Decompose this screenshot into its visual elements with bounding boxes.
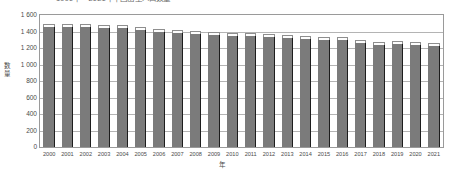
- bar-column: [172, 15, 183, 147]
- bar-top-face: [43, 24, 54, 27]
- bar-top-face: [373, 42, 384, 45]
- bar-top-face: [318, 37, 329, 40]
- bar-top-face: [80, 24, 91, 27]
- bar-top-face: [227, 33, 238, 36]
- y-axis-tick-label: 0: [3, 143, 37, 150]
- bar-top-face: [153, 29, 164, 32]
- x-axis-tick-label: 2008: [187, 150, 205, 158]
- y-axis-tick-label: 400: [3, 110, 37, 117]
- x-axis-tick-label: 2012: [260, 150, 278, 158]
- bar: [135, 30, 146, 147]
- bar-top-face: [355, 40, 366, 43]
- bar: [227, 36, 238, 147]
- y-axis-tick-label: 1 400: [3, 28, 37, 35]
- bar-top-face: [135, 27, 146, 30]
- bar-top-face: [263, 34, 274, 37]
- bar: [337, 40, 348, 147]
- y-axis-tick-label: 600: [3, 94, 37, 101]
- bar: [80, 27, 91, 147]
- bar-column: [227, 15, 238, 147]
- x-axis-tick-labels: 2000200120022003200420052006200720082009…: [40, 150, 443, 160]
- x-axis-tick-label: 2003: [95, 150, 113, 158]
- bar-top-face: [428, 43, 439, 46]
- bar: [43, 27, 54, 147]
- bar-column: [190, 15, 201, 147]
- chart-title: 1990年—2021年中国出生人口数量: [56, 0, 386, 6]
- x-axis-tick-label: 2010: [223, 150, 241, 158]
- bar-column: [355, 15, 366, 147]
- bar-column: [337, 15, 348, 147]
- bar: [245, 36, 256, 147]
- bar-top-face: [410, 42, 421, 45]
- bar-column: [98, 15, 109, 147]
- bar: [208, 35, 219, 147]
- bar: [410, 45, 421, 147]
- x-axis-tick-label: 2009: [205, 150, 223, 158]
- bar: [428, 46, 439, 147]
- bar-top-face: [98, 25, 109, 28]
- bar-column: [410, 15, 421, 147]
- x-axis-tick-label: 2004: [113, 150, 131, 158]
- x-axis-tick-label: 2016: [333, 150, 351, 158]
- x-axis-tick-label: 2002: [77, 150, 95, 158]
- bar-column: [300, 15, 311, 147]
- bar-top-face: [190, 31, 201, 34]
- x-axis-tick-label: 2015: [315, 150, 333, 158]
- x-axis-tick-label: 2013: [278, 150, 296, 158]
- bar-top-face: [117, 25, 128, 28]
- bar-series: [40, 15, 443, 147]
- bar-chart: 1990年—2021年中国出生人口数量 数量 1 6001 4001 2001 …: [0, 0, 450, 175]
- bar-top-face: [392, 41, 403, 44]
- x-axis-tick-label: 2020: [406, 150, 424, 158]
- bar-top-face: [245, 33, 256, 36]
- y-axis-tick-label: 200: [3, 127, 37, 134]
- bar-column: [117, 15, 128, 147]
- bar-column: [318, 15, 329, 147]
- bar: [153, 32, 164, 147]
- bar: [263, 37, 274, 147]
- y-axis-tick-label: 1 000: [3, 61, 37, 68]
- bar-top-face: [172, 30, 183, 33]
- x-axis-tick-label: 2014: [296, 150, 314, 158]
- y-axis-tick-label: 800: [3, 77, 37, 84]
- bar: [117, 28, 128, 147]
- y-axis-tick-label: 1 200: [3, 44, 37, 51]
- x-axis-tick-label: 2017: [351, 150, 369, 158]
- bar: [318, 40, 329, 147]
- bar: [98, 28, 109, 147]
- x-axis-title: 年: [219, 161, 226, 169]
- x-axis-tick-label: 2011: [242, 150, 260, 158]
- bar-column: [373, 15, 384, 147]
- bar-top-face: [282, 35, 293, 38]
- x-axis-tick-label: 2019: [388, 150, 406, 158]
- bar-column: [208, 15, 219, 147]
- bar-column: [263, 15, 274, 147]
- x-axis-tick-label: 2007: [168, 150, 186, 158]
- bar-column: [153, 15, 164, 147]
- x-axis-tick-label: 2018: [370, 150, 388, 158]
- bar-column: [80, 15, 91, 147]
- bar: [300, 39, 311, 147]
- bar: [62, 27, 73, 147]
- x-axis-tick-label: 2001: [58, 150, 76, 158]
- y-axis-tick-labels: 1 6001 4001 2001 0008006004002000: [0, 14, 37, 148]
- bar: [392, 44, 403, 147]
- bar-top-face: [337, 37, 348, 40]
- x-axis-tick-label: 2005: [132, 150, 150, 158]
- bar: [355, 43, 366, 147]
- bar: [190, 34, 201, 147]
- bar-column: [428, 15, 439, 147]
- y-axis-tick-label: 1 600: [3, 11, 37, 18]
- bar-column: [62, 15, 73, 147]
- bar-column: [245, 15, 256, 147]
- x-axis-tick-label: 2000: [40, 150, 58, 158]
- bar-top-face: [300, 36, 311, 39]
- bar-top-face: [208, 32, 219, 35]
- bar: [172, 33, 183, 147]
- bar-column: [135, 15, 146, 147]
- x-axis-tick-label: 2021: [425, 150, 443, 158]
- bar: [373, 45, 384, 147]
- bar-column: [43, 15, 54, 147]
- x-axis-tick-label: 2006: [150, 150, 168, 158]
- bar-column: [282, 15, 293, 147]
